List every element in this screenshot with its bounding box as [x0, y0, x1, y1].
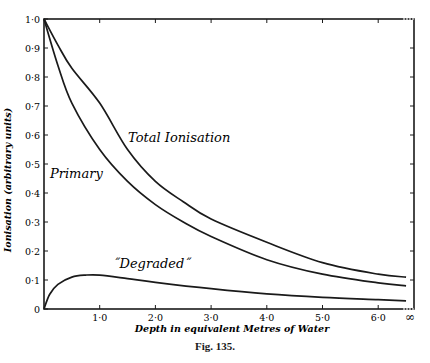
x-tick-label: 4·0 — [259, 312, 274, 323]
x-axis: 1·02·03·04·05·06·0∞ — [92, 19, 415, 324]
x-tick-label: 1·0 — [92, 312, 107, 323]
x-axis-label: Depth in equivalent Metres of Water — [134, 323, 330, 334]
y-tick-label: 0·7 — [25, 101, 40, 112]
y-tick-label: 0 — [34, 304, 40, 315]
y-tick-label: 1·0 — [25, 14, 40, 25]
x-tick-label: 5·0 — [315, 312, 330, 323]
x-tick-label: 6·0 — [371, 312, 386, 323]
figure-caption: Fig. 135. — [0, 340, 430, 352]
y-tick-label: 0·4 — [25, 188, 40, 199]
total-ionisation-label: Total Ionisation — [128, 130, 230, 145]
y-tick-label: 0·5 — [25, 159, 40, 170]
x-tick-label: 3·0 — [204, 312, 219, 323]
primary-curve — [44, 19, 406, 286]
y-tick-label: 0·8 — [25, 72, 40, 83]
y-tick-label: 0·1 — [25, 275, 40, 286]
y-tick-label: 0·2 — [25, 246, 40, 257]
y-tick-label: 0·9 — [25, 43, 40, 54]
x-tick-label-infinity: ∞ — [405, 310, 415, 324]
y-tick-label: 0·6 — [25, 130, 40, 141]
degraded-label: ˝Degraded˝ — [113, 256, 192, 271]
x-tick-label: 2·0 — [148, 312, 163, 323]
primary-label: Primary — [49, 166, 103, 181]
ionisation-depth-chart: 00·10·20·30·40·50·60·70·80·91·0 1·02·03·… — [0, 0, 430, 363]
curves — [44, 19, 406, 309]
axes-box — [44, 19, 414, 309]
plot-frame — [44, 19, 414, 309]
y-tick-label: 0·3 — [25, 217, 40, 228]
y-axis-label: Ionisation (arbitrary units) — [2, 108, 13, 253]
